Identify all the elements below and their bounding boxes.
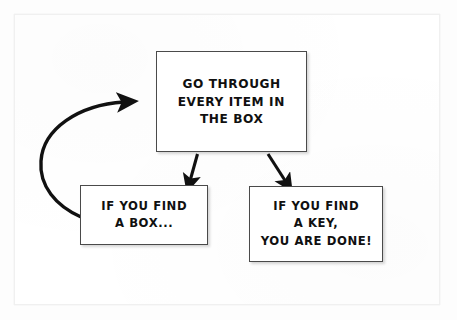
flowchart-screenshot: GO THROUGH EVERY ITEM IN THE BOX IF YOU … [0, 0, 457, 320]
node-line: YOU ARE DONE! [260, 233, 372, 250]
node-line: THE BOX [200, 110, 263, 128]
node-if-you-find-a-box[interactable]: IF YOU FIND A BOX... [80, 185, 208, 245]
node-line: IF YOU FIND [273, 198, 359, 215]
node-line: EVERY ITEM IN [178, 93, 285, 111]
node-line: A KEY, [294, 215, 338, 232]
node-go-through-every-item[interactable]: GO THROUGH EVERY ITEM IN THE BOX [156, 51, 307, 152]
node-if-you-find-a-key[interactable]: IF YOU FIND A KEY, YOU ARE DONE! [249, 186, 383, 262]
node-line: GO THROUGH [182, 75, 280, 93]
node-line: A BOX... [115, 215, 173, 232]
node-line: IF YOU FIND [101, 198, 187, 215]
